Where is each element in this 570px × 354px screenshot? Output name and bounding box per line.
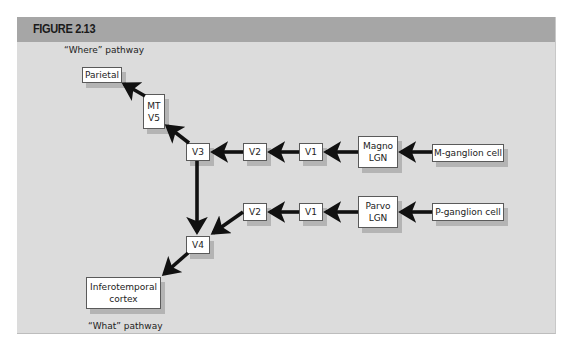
- arrow-v2-to-v4: [213, 212, 243, 233]
- arrow-v3-to-mt: [167, 126, 189, 143]
- arrow-v4-to-inferotemporal: [164, 253, 188, 274]
- arrow-mt-to-parietal: [124, 84, 145, 96]
- arrows-layer: [0, 0, 570, 354]
